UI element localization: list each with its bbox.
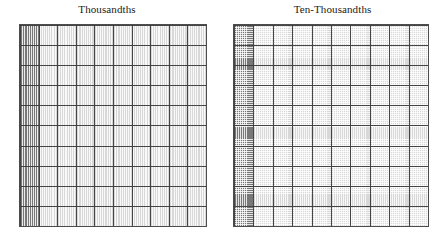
panel-ten-thousandths: Ten-Thousandths <box>222 0 443 247</box>
minor-horizontal-lines-ten-thousandths <box>234 25 428 226</box>
minor-vertical-lines-thousandths <box>20 25 206 226</box>
grid-thousandths[interactable] <box>19 24 207 227</box>
minor-vertical-lines-ten-thousandths <box>234 25 428 226</box>
major-vertical-lines-ten-thousandths <box>234 25 428 226</box>
shaded-column-ten-thousandths <box>234 25 253 226</box>
figure-canvas: Thousandths Ten-Thousandths <box>0 0 443 247</box>
panel-thousandths: Thousandths <box>0 0 214 247</box>
panel-title-thousandths: Thousandths <box>0 2 214 16</box>
shaded-column-thousandths <box>20 25 39 226</box>
major-horizontal-lines-thousandths <box>20 25 206 226</box>
grid-ten-thousandths[interactable] <box>233 24 429 227</box>
major-horizontal-lines-ten-thousandths <box>234 25 428 226</box>
panel-title-ten-thousandths: Ten-Thousandths <box>222 2 443 16</box>
major-vertical-lines-thousandths <box>20 25 206 226</box>
